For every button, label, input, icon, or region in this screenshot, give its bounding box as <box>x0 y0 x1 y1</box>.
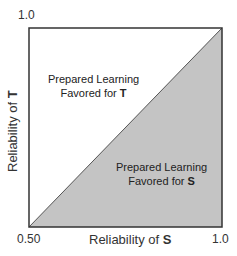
x-axis-label: Reliability of S <box>89 232 171 247</box>
region-label-t: Prepared Learning Favored for T <box>48 72 139 100</box>
x-tick-max: 1.0 <box>212 232 229 246</box>
y-tick-max: 1.0 <box>18 8 35 22</box>
region-label-s: Prepared Learning Favored for S <box>116 160 207 188</box>
x-tick-min: 0.50 <box>17 232 40 246</box>
plot-area <box>0 0 237 256</box>
y-axis-label: Reliability of T <box>5 90 20 172</box>
